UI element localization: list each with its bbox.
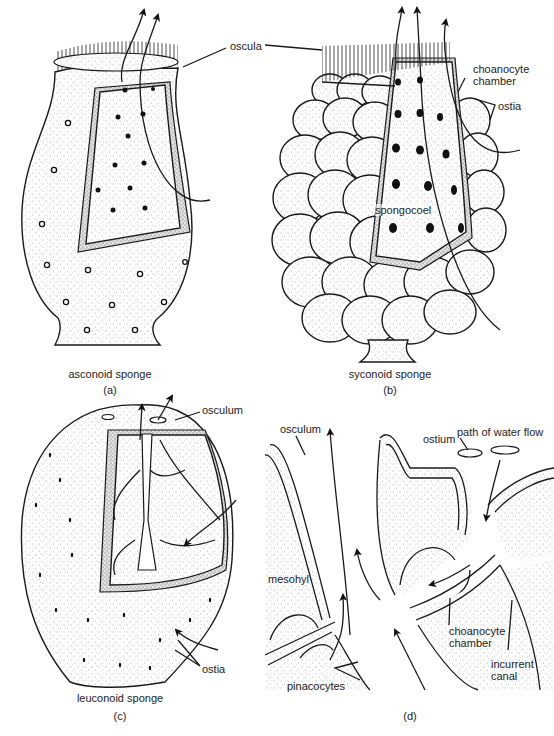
label-pinacocytes: pinacocytes (287, 680, 345, 692)
caption-a-letter: (a) (50, 384, 170, 396)
label-osculum-c: osculum (202, 404, 243, 416)
label-ostia-c: ostia (202, 663, 225, 675)
caption-d-letter: (d) (350, 710, 470, 722)
caption-c-letter: (c) (60, 710, 180, 722)
label-osculum-d: osculum (280, 423, 321, 435)
caption-b-letter: (b) (330, 384, 450, 396)
label-spongocoel: spongocoel (375, 204, 431, 216)
label-line-1: incurrent (491, 658, 534, 670)
caption-c-title: leuconoid sponge (60, 692, 180, 704)
caption-b-title: syconoid sponge (330, 368, 450, 380)
label-line-1: choanocyte (449, 625, 505, 637)
label-ostium: ostium (423, 433, 455, 445)
label-incurrent-canal: incurrent canal (491, 658, 534, 682)
panel-a-asconoid (22, 10, 210, 345)
label-line-1: choanocyte (473, 63, 529, 75)
caption-a-title: asconoid sponge (50, 368, 170, 380)
label-line-2: chamber (449, 637, 505, 649)
label-line-2: canal (491, 670, 534, 682)
label-mesohyl: mesohyl (268, 573, 309, 585)
panel-c-leuconoid (21, 396, 236, 687)
panel-d-cross-section (265, 430, 554, 690)
label-ostia-b: ostia (498, 100, 521, 112)
panel-b-syconoid (272, 8, 520, 362)
label-oscula: oscula (230, 40, 262, 52)
label-path-of-water-flow: path of water flow (457, 426, 543, 438)
label-choanocyte-chamber-b: choanocyte chamber (473, 63, 529, 87)
label-choanocyte-chamber-d: choanocyte chamber (449, 625, 505, 649)
label-line-2: chamber (473, 75, 529, 87)
